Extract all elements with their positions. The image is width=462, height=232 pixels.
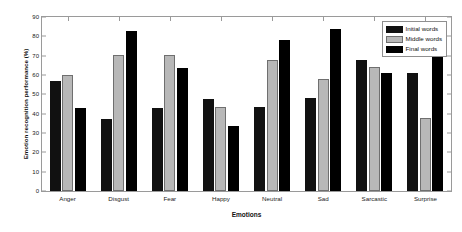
y-tick-mark-right bbox=[447, 17, 451, 18]
y-tick-mark-right bbox=[447, 171, 451, 172]
legend-label-initial: Initial words bbox=[406, 25, 439, 33]
bar bbox=[113, 55, 124, 191]
y-axis-title: Emotion recognition performance (%) bbox=[16, 16, 28, 192]
y-tick-mark bbox=[42, 55, 46, 56]
x-axis-title: Emotions bbox=[41, 211, 452, 218]
bar bbox=[420, 118, 431, 191]
y-tick-label: 60 bbox=[32, 72, 39, 78]
x-tick-label: Fear bbox=[163, 195, 176, 202]
y-tick-mark-right bbox=[447, 94, 451, 95]
bar bbox=[203, 99, 214, 191]
bar bbox=[279, 40, 290, 191]
y-tick-mark-right bbox=[447, 191, 451, 192]
chart-figure: Emotion recognition performance (%) 0102… bbox=[0, 0, 462, 232]
y-tick-mark-right bbox=[447, 152, 451, 153]
bar bbox=[126, 31, 137, 191]
y-tick-label: 20 bbox=[32, 149, 39, 155]
bar bbox=[356, 60, 367, 191]
y-tick-label: 40 bbox=[32, 111, 39, 117]
y-tick-label: 80 bbox=[32, 33, 39, 39]
y-tick-mark bbox=[42, 171, 46, 172]
legend-label-final: Final words bbox=[406, 45, 438, 53]
bar bbox=[267, 60, 278, 191]
x-tick-mark bbox=[221, 17, 222, 21]
legend-swatch-icon-final bbox=[386, 46, 403, 53]
y-tick-mark bbox=[42, 133, 46, 134]
x-tick-mark bbox=[272, 17, 273, 21]
y-tick-mark bbox=[42, 152, 46, 153]
bar bbox=[432, 54, 443, 191]
y-tick-label: 30 bbox=[32, 130, 39, 136]
x-tick-mark bbox=[68, 17, 69, 21]
y-tick-mark bbox=[42, 113, 46, 114]
legend-label-middle: Middle words bbox=[406, 35, 442, 43]
x-tick-mark bbox=[119, 17, 120, 21]
bar bbox=[330, 29, 341, 191]
bar bbox=[152, 108, 163, 191]
bar bbox=[101, 119, 112, 191]
x-tick-mark bbox=[374, 17, 375, 21]
y-tick-mark bbox=[42, 191, 46, 192]
x-tick-label: Neutral bbox=[262, 195, 282, 202]
bar bbox=[215, 107, 226, 191]
legend-item-initial-words: Initial words bbox=[386, 25, 442, 33]
x-tick-label: Happy bbox=[212, 195, 230, 202]
bar bbox=[228, 126, 239, 191]
y-tick-mark bbox=[42, 94, 46, 95]
legend-swatch-icon-middle bbox=[386, 36, 403, 43]
bar bbox=[407, 73, 418, 191]
x-tick-label: Sad bbox=[318, 195, 329, 202]
legend-item-middle-words: Middle words bbox=[386, 35, 442, 43]
bar bbox=[369, 67, 380, 191]
bar bbox=[50, 81, 61, 191]
chart-legend: Initial words Middle words Final words bbox=[382, 21, 447, 57]
bar bbox=[381, 73, 392, 191]
y-tick-mark-right bbox=[447, 36, 451, 37]
x-tick-mark bbox=[170, 17, 171, 21]
y-tick-mark-right bbox=[447, 133, 451, 134]
y-tick-label: 0 bbox=[36, 188, 39, 194]
y-tick-mark bbox=[42, 17, 46, 18]
bar bbox=[177, 68, 188, 191]
x-tick-label: Sarcastic bbox=[362, 195, 387, 202]
bar bbox=[318, 79, 329, 191]
plot-area: 0102030405060708090 AngerDisgustFearHapp… bbox=[41, 16, 452, 192]
y-tick-label: 70 bbox=[32, 53, 39, 59]
y-tick-label: 90 bbox=[32, 14, 39, 20]
y-tick-mark bbox=[42, 75, 46, 76]
y-tick-mark-right bbox=[447, 75, 451, 76]
x-tick-mark bbox=[323, 17, 324, 21]
y-tick-mark bbox=[42, 36, 46, 37]
bar bbox=[254, 107, 265, 191]
x-tick-label: Surprise bbox=[414, 195, 437, 202]
y-axis-title-text: Emotion recognition performance (%) bbox=[22, 16, 29, 192]
legend-item-final-words: Final words bbox=[386, 45, 442, 53]
bar bbox=[75, 108, 86, 191]
bar bbox=[164, 55, 175, 191]
y-tick-mark-right bbox=[447, 113, 451, 114]
bar bbox=[62, 75, 73, 191]
legend-swatch-icon-initial bbox=[386, 26, 403, 33]
y-tick-label: 50 bbox=[32, 91, 39, 97]
y-tick-mark-right bbox=[447, 55, 451, 56]
x-tick-label: Disgust bbox=[108, 195, 129, 202]
bar bbox=[305, 98, 316, 191]
x-tick-label: Anger bbox=[59, 195, 76, 202]
y-tick-label: 10 bbox=[32, 169, 39, 175]
